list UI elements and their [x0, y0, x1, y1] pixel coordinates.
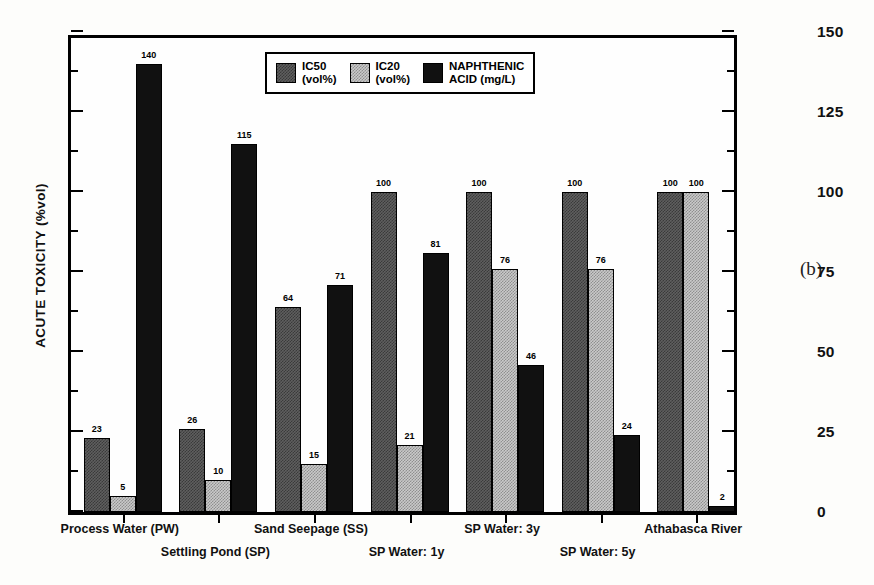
bar-ic20-3: 21	[397, 445, 423, 512]
x-axis-label-5: SP Water: 5y	[560, 545, 636, 559]
y-tick-right-25	[722, 430, 734, 432]
y-tick-label-right-50: 50	[817, 343, 835, 361]
y-tick-left-150	[71, 30, 83, 32]
bar-value-label: 140	[141, 51, 156, 60]
y-tick-label-right-150: 150	[817, 23, 843, 41]
legend-item-ic20: IC20 (vol%)	[350, 60, 411, 86]
y-tick-left-75	[71, 270, 83, 272]
y-tick-right-75	[722, 270, 734, 272]
legend-item-na: NAPHTHENIC ACID (mg/L)	[423, 60, 524, 86]
y-tick-left-25	[71, 430, 83, 432]
bar-ic50-1: 26	[179, 429, 205, 512]
bar-value-label: 100	[376, 179, 391, 188]
bar-value-label: 100	[472, 179, 487, 188]
bar-ic50-4: 100	[466, 192, 492, 512]
bar-ic20-2: 15	[301, 464, 327, 512]
bar-value-label: 24	[622, 422, 632, 431]
bar-na-2: 71	[327, 285, 353, 512]
x-axis-label-0: Process Water (PW)	[61, 522, 179, 536]
solid-black-swatch	[423, 63, 443, 83]
figure-panel: (b) ACUTE TOXICITY (%vol) CONCENTRATION …	[0, 0, 874, 585]
bar-ic20-4: 76	[492, 269, 518, 512]
y-tick-left-12.5	[71, 470, 78, 472]
y-tick-left-137.5	[71, 70, 78, 72]
y-tick-left-50	[71, 350, 83, 352]
y-tick-right-50	[722, 350, 734, 352]
bar-na-5: 24	[614, 435, 640, 512]
x-axis-label-1: Settling Pond (SP)	[161, 545, 270, 559]
y-tick-right-100	[722, 190, 734, 192]
bar-value-label: 46	[526, 352, 536, 361]
bar-value-label: 26	[187, 416, 197, 425]
x-axis-label-3: SP Water: 1y	[369, 545, 445, 559]
y-tick-left-100	[71, 190, 83, 192]
bar-value-label: 71	[335, 272, 345, 281]
y-tick-right-87.5	[727, 230, 734, 232]
y-tick-left-0	[71, 510, 83, 512]
bar-ic20-0: 5	[110, 496, 136, 512]
bar-value-label: 100	[567, 179, 582, 188]
dark-checker-swatch	[276, 63, 296, 83]
y-tick-label-right-125: 125	[817, 103, 843, 121]
light-checker-swatch	[350, 63, 370, 83]
bar-ic20-5: 76	[588, 269, 614, 512]
x-tick-1	[218, 512, 220, 523]
legend-label-ic20: IC20 (vol%)	[376, 60, 411, 86]
legend-label-ic50: IC50 (vol%)	[302, 60, 337, 86]
y-tick-left-62.5	[71, 310, 78, 312]
bar-ic20-6: 100	[683, 192, 709, 512]
y-tick-label-right-25: 25	[817, 423, 835, 441]
y-tick-right-37.5	[727, 390, 734, 392]
bar-ic50-6: 100	[657, 192, 683, 512]
legend-item-ic50: IC50 (vol%)	[276, 60, 337, 86]
y-tick-left-37.5	[71, 390, 78, 392]
bar-value-label: 76	[596, 256, 606, 265]
bar-na-1: 115	[231, 144, 257, 512]
bar-na-0: 140	[136, 64, 162, 512]
bar-ic20-1: 10	[205, 480, 231, 512]
y-tick-left-87.5	[71, 230, 78, 232]
y-tick-right-137.5	[727, 70, 734, 72]
y-tick-right-150	[722, 30, 734, 32]
x-axis-label-4: SP Water: 3y	[464, 522, 540, 536]
y-tick-label-right-100: 100	[817, 183, 843, 201]
y-tick-right-62.5	[727, 310, 734, 312]
bar-value-label: 23	[92, 425, 102, 434]
bar-value-label: 115	[237, 131, 252, 140]
bar-value-label: 76	[500, 256, 510, 265]
bar-value-label: 2	[720, 493, 725, 502]
y-tick-left-125	[71, 110, 83, 112]
bar-value-label: 5	[120, 483, 125, 492]
bar-value-label: 81	[430, 240, 440, 249]
x-axis-label-2: Sand Seepage (SS)	[254, 522, 368, 536]
x-tick-3	[410, 512, 412, 523]
bar-ic50-3: 100	[371, 192, 397, 512]
y-tick-left-112.5	[71, 150, 78, 152]
bar-value-label: 64	[283, 294, 293, 303]
bar-value-label: 21	[404, 432, 414, 441]
x-tick-5	[601, 512, 603, 523]
bar-value-label: 15	[309, 451, 319, 460]
bar-ic50-5: 100	[562, 192, 588, 512]
bar-ic50-2: 64	[275, 307, 301, 512]
y-tick-right-12.5	[727, 470, 734, 472]
y-tick-label-right-0: 0	[817, 503, 826, 521]
y-axis-title-left: ACUTE TOXICITY (%vol)	[33, 166, 48, 366]
chart-legend: IC50 (vol%)IC20 (vol%)NAPHTHENIC ACID (m…	[265, 52, 535, 94]
y-tick-right-112.5	[727, 150, 734, 152]
bar-ic50-0: 23	[84, 438, 110, 512]
bar-value-label: 100	[663, 179, 678, 188]
plot-area: 0255075100125150 0255075100125150 235140…	[68, 35, 737, 515]
y-tick-label-right-75: 75	[817, 263, 835, 281]
x-axis-label-6: Athabasca River	[644, 522, 742, 536]
bar-na-6: 2	[709, 506, 735, 512]
bar-value-label: 100	[689, 179, 704, 188]
y-tick-right-125	[722, 110, 734, 112]
bar-na-3: 81	[423, 253, 449, 512]
legend-label-na: NAPHTHENIC ACID (mg/L)	[449, 60, 524, 86]
bar-value-label: 10	[213, 467, 223, 476]
bar-na-4: 46	[518, 365, 544, 512]
